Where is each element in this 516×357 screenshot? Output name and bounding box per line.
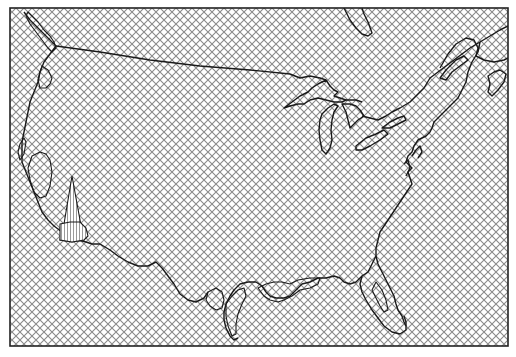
map-figure	[0, 0, 516, 357]
hatch-fill	[10, 8, 508, 346]
us-map-svg	[0, 0, 516, 357]
